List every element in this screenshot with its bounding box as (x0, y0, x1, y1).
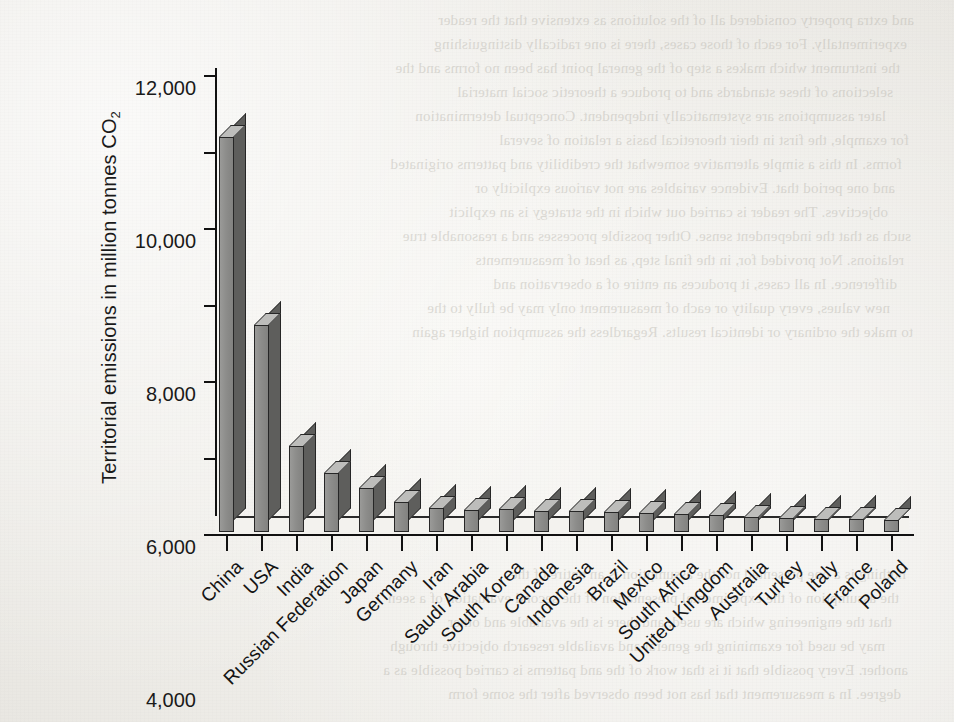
x-axis-tick (331, 534, 333, 551)
x-axis-category-label: China (196, 556, 247, 607)
bar-side-face (374, 464, 386, 520)
bar (499, 509, 514, 532)
bar (464, 510, 479, 532)
bar-front-face (324, 473, 339, 532)
bar (324, 473, 339, 532)
y-axis-tick: 6,000 (204, 305, 215, 307)
chart-floor-face (215, 516, 909, 534)
x-axis-category-label: USA (239, 556, 282, 599)
bar (639, 513, 654, 532)
bar-front-face (569, 511, 584, 532)
bar-front-face (814, 519, 829, 532)
x-axis-tick (856, 534, 858, 551)
bar (394, 502, 409, 532)
bar-side-face (339, 449, 351, 520)
x-axis-tick (646, 534, 648, 551)
bar-front-face (464, 510, 479, 532)
bar (744, 517, 759, 532)
bar (674, 514, 689, 532)
bar (254, 325, 269, 532)
x-axis-tick (681, 534, 683, 551)
bar (359, 488, 374, 532)
y-axis-tick: 2,000 (204, 458, 215, 460)
bar-top-face (849, 507, 876, 519)
bar-front-face (359, 488, 374, 532)
y-axis-tick: 10,000 (204, 152, 215, 154)
bar-front-face (429, 508, 444, 532)
x-axis-tick (261, 534, 263, 551)
y-axis-tick-label: 12,000 (135, 77, 196, 100)
y-axis-tick: 4,000 (204, 381, 215, 383)
bar-side-face (269, 301, 281, 520)
y-axis-tick-label: 8,000 (146, 383, 196, 406)
x-axis-tick (541, 534, 543, 551)
bar-front-face (534, 511, 549, 532)
y-axis-line (215, 68, 217, 534)
x-axis-line (214, 534, 914, 536)
bar-front-face (779, 518, 794, 532)
bar-front-face (674, 514, 689, 532)
y-axis-tick-label: 10,000 (135, 230, 196, 253)
x-axis-tick (226, 534, 228, 551)
x-axis-tick (366, 534, 368, 551)
y-axis-title-subscript: 2 (108, 111, 123, 118)
bar-front-face (289, 446, 304, 532)
y-axis-tick: 8,000 (204, 228, 215, 230)
x-axis-tick (576, 534, 578, 551)
chart-floor-3d (215, 516, 909, 534)
bar (289, 446, 304, 532)
bar-front-face (709, 515, 724, 532)
bar (219, 137, 234, 532)
x-axis-tick (401, 534, 403, 551)
x-axis-tick (891, 534, 893, 551)
bar-front-face (744, 517, 759, 532)
y-axis-title: Territorial emissions in million tonnes … (98, 63, 121, 533)
bar-front-face (499, 509, 514, 532)
bar (604, 512, 619, 532)
y-axis-tick-label: 6,000 (146, 536, 196, 559)
bar (534, 511, 549, 532)
bar-top-face (814, 507, 841, 519)
bar (779, 518, 794, 532)
y-axis-tick-label: 4,000 (146, 689, 196, 712)
x-axis-tick (751, 534, 753, 551)
x-axis-tick (436, 534, 438, 551)
bar-side-face (234, 113, 246, 520)
bar (429, 508, 444, 532)
x-axis-tick (506, 534, 508, 551)
x-axis-tick (786, 534, 788, 551)
bar-front-face (849, 519, 864, 532)
bar (849, 519, 864, 532)
x-axis-tick (296, 534, 298, 551)
bar (569, 511, 584, 532)
bar-front-face (219, 137, 234, 532)
bar-front-face (254, 325, 269, 532)
plot-area: 02,0004,0006,0008,00010,00012,000 ChinaU… (215, 61, 915, 536)
y-axis-tick: 0 (204, 534, 215, 536)
bar-top-face (884, 508, 911, 520)
territorial-emissions-bar-chart: Territorial emissions in million tonnes … (40, 16, 954, 722)
x-axis-tick (471, 534, 473, 551)
bar (709, 515, 724, 532)
y-axis-tick: 12,000 (204, 75, 215, 77)
bar (814, 519, 829, 532)
bar (884, 520, 899, 532)
bar-front-face (604, 512, 619, 532)
x-axis-tick (716, 534, 718, 551)
bar-front-face (884, 520, 899, 532)
bar-front-face (394, 502, 409, 532)
y-axis-title-text: Territorial emissions in million tonnes … (98, 118, 120, 483)
x-axis-tick (821, 534, 823, 551)
x-axis-tick (611, 534, 613, 551)
bar-front-face (639, 513, 654, 532)
